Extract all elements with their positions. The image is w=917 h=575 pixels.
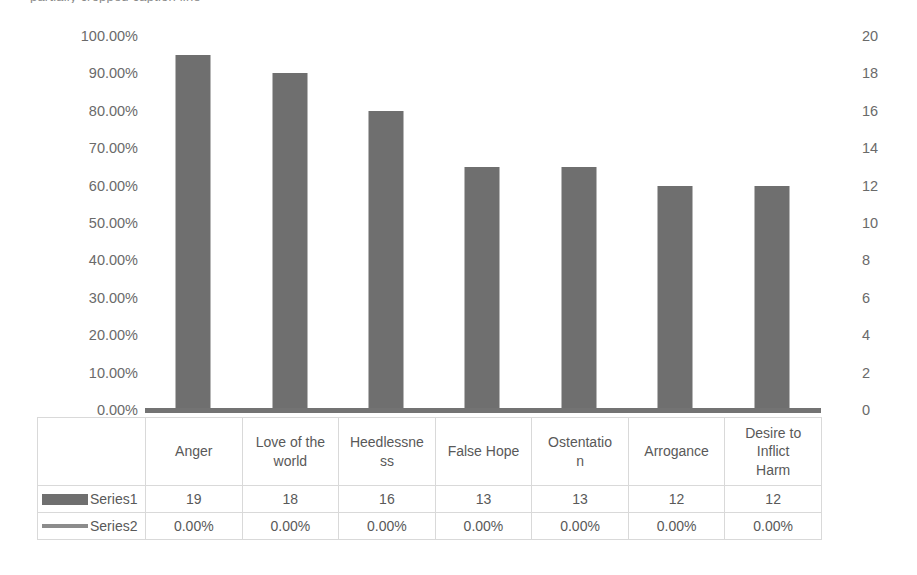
bar-slot [145, 36, 241, 410]
table-cell-series2: 0.00% [725, 513, 822, 540]
bar-arrogance [658, 186, 693, 410]
table-cell-series1: 13 [532, 486, 629, 513]
plot-area [145, 36, 820, 410]
bar-slot [531, 36, 627, 410]
bar-slot [627, 36, 723, 410]
table-cell-series2: 0.00% [146, 513, 243, 540]
table-cell-series2: 0.00% [532, 513, 629, 540]
secondary-y-axis: 20181614121086420 [862, 36, 902, 410]
bar-slot [241, 36, 337, 410]
series1-label: Series1 [90, 490, 137, 508]
bar-anger [176, 55, 211, 410]
bar-love-of-the-world [272, 73, 307, 410]
legend-corner-cell [38, 418, 146, 486]
bar-false-hope [465, 167, 500, 410]
series2-line [145, 408, 821, 413]
table-cell-series1: 16 [339, 486, 436, 513]
bar-heedlessness [369, 111, 404, 410]
table-cell-series2: 0.00% [628, 513, 725, 540]
table-cell-series1: 12 [725, 486, 822, 513]
legend-series1: Series1 [38, 486, 146, 513]
series2-label: Series2 [90, 517, 137, 535]
chart-data-table: AngerLove of theworldHeedlessnessFalse H… [37, 417, 822, 540]
table-header-cell: Anger [146, 418, 243, 486]
bar-chart: 100.00%90.00%80.00%70.00%60.00%50.00%40.… [0, 0, 917, 575]
bar-desire-to-inflict-harm [754, 186, 789, 410]
table-header-cell: Arrogance [628, 418, 725, 486]
table-row-series2: Series2 0.00%0.00%0.00%0.00%0.00%0.00%0.… [38, 513, 822, 540]
table-header-row: AngerLove of theworldHeedlessnessFalse H… [38, 418, 822, 486]
table-header-cell: Ostentation [532, 418, 629, 486]
series2-swatch-icon [42, 524, 88, 528]
table-cell-series2: 0.00% [339, 513, 436, 540]
bar-ostentation [561, 167, 596, 410]
bar-slot [338, 36, 434, 410]
table-cell-series2: 0.00% [242, 513, 339, 540]
table-header-cell: Desire toInflictHarm [725, 418, 822, 486]
bar-slot [724, 36, 820, 410]
table-cell-series1: 12 [628, 486, 725, 513]
primary-y-axis: 100.00%90.00%80.00%70.00%60.00%50.00%40.… [38, 36, 138, 410]
table-cell-series1: 19 [146, 486, 243, 513]
series1-swatch-icon [42, 494, 88, 505]
table-cell-series1: 18 [242, 486, 339, 513]
table-cell-series2: 0.00% [435, 513, 532, 540]
table-header-cell: False Hope [435, 418, 532, 486]
table-cell-series1: 13 [435, 486, 532, 513]
legend-series2: Series2 [38, 513, 146, 540]
table-row-series1: Series1 19181613131212 [38, 486, 822, 513]
bar-slot [434, 36, 530, 410]
table-header-cell: Heedlessness [339, 418, 436, 486]
table-header-cell: Love of theworld [242, 418, 339, 486]
